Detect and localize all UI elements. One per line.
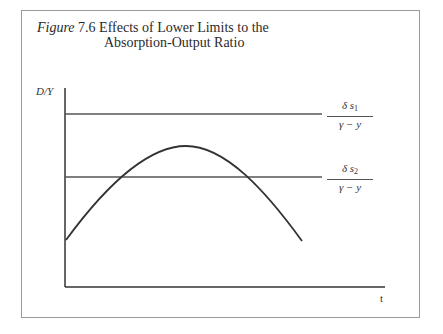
lower-limit-label: δ s2 γ − y	[327, 162, 373, 193]
x-axis-label: t	[380, 292, 383, 304]
upper-numerator: δ s	[342, 99, 354, 111]
lower-numerator: δ s	[342, 162, 354, 174]
absorption-output-curve	[66, 146, 302, 241]
upper-limit-label: δ s1 γ − y	[327, 99, 373, 130]
lower-subscript: 2	[354, 167, 358, 176]
y-axis-label: D/Y	[36, 85, 53, 97]
plot-area	[0, 0, 443, 334]
upper-subscript: 1	[354, 104, 358, 113]
upper-denominator: γ − y	[327, 117, 373, 130]
lower-denominator: γ − y	[327, 180, 373, 193]
